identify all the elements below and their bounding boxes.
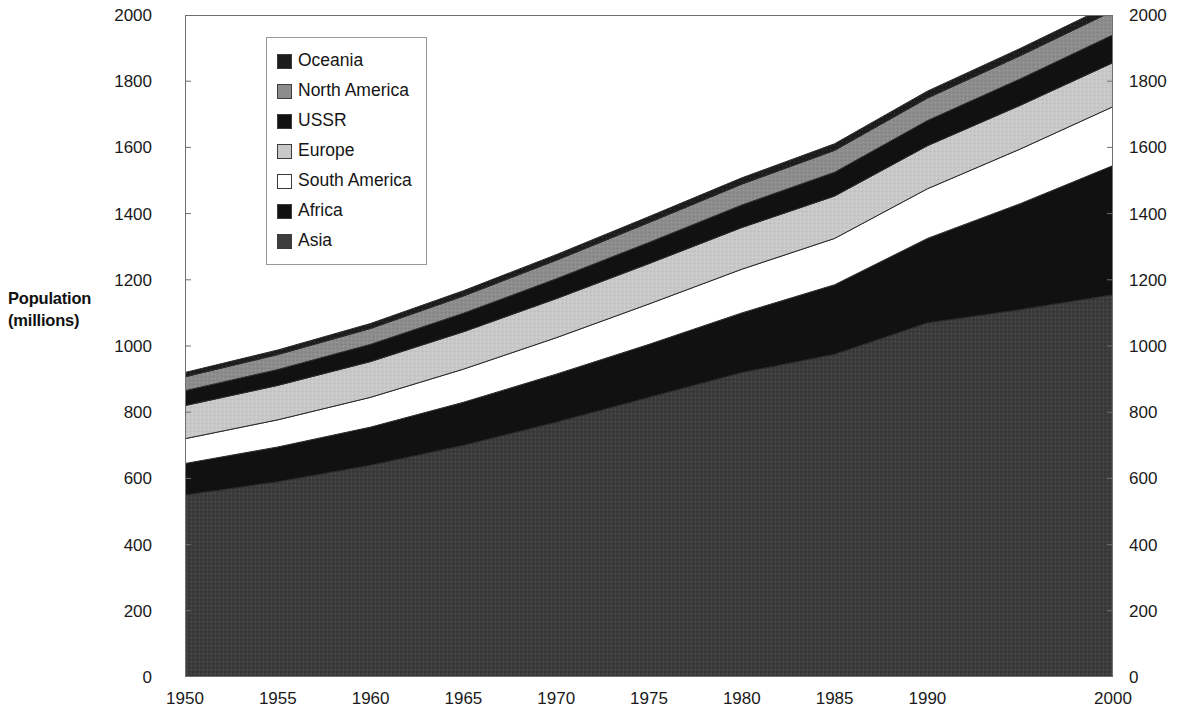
- legend-swatch-icon: [277, 54, 292, 69]
- y-axis-tick-label: 600: [124, 470, 152, 487]
- x-axis-tick-label: 2000: [1094, 690, 1132, 707]
- x-axis-tick-label: 1965: [444, 690, 482, 707]
- y-axis-tick-label-right: 200: [1129, 603, 1157, 620]
- y-axis-tick-label: 2000: [114, 7, 152, 24]
- y-axis-title: Population (millions): [8, 288, 133, 332]
- x-axis-tick-label: 1990: [908, 690, 946, 707]
- x-axis-tick-label: 1970: [537, 690, 575, 707]
- legend-item-label: South America: [298, 172, 412, 190]
- legend-item-africa[interactable]: Africa: [277, 196, 412, 226]
- y-axis-tick-label: 1000: [114, 338, 152, 355]
- y-axis-tick-label-right: 1400: [1129, 206, 1167, 223]
- y-axis-title-line-1: Population: [8, 288, 133, 310]
- legend-item-label: Oceania: [298, 52, 363, 70]
- chart-legend: OceaniaNorth AmericaUSSREuropeSouth Amer…: [266, 37, 427, 265]
- y-axis-title-line-2: (millions): [8, 310, 133, 332]
- y-axis-tick-label: 1200: [114, 272, 152, 289]
- legend-item-label: Africa: [298, 202, 343, 220]
- x-axis-tick-label: 1975: [630, 690, 668, 707]
- y-axis-tick-label: 0: [143, 669, 152, 686]
- legend-item-south-america[interactable]: South America: [277, 166, 412, 196]
- y-axis-tick-label: 1400: [114, 206, 152, 223]
- legend-item-oceania[interactable]: Oceania: [277, 46, 412, 76]
- legend-item-label: Europe: [298, 142, 354, 160]
- y-axis-tick-label: 400: [124, 537, 152, 554]
- y-axis-tick-label: 800: [124, 404, 152, 421]
- y-axis-tick-label: 200: [124, 603, 152, 620]
- legend-item-label: Asia: [298, 232, 332, 250]
- y-axis-tick-label-right: 1600: [1129, 139, 1167, 156]
- y-axis-tick-label-right: 1200: [1129, 272, 1167, 289]
- y-axis-tick-label-right: 400: [1129, 537, 1157, 554]
- x-axis-tick-label: 1980: [723, 690, 761, 707]
- x-axis-tick-label: 1955: [259, 690, 297, 707]
- y-axis-tick-label-right: 1000: [1129, 338, 1167, 355]
- y-axis-tick-label: 1600: [114, 139, 152, 156]
- legend-swatch-icon: [277, 234, 292, 249]
- legend-swatch-icon: [277, 204, 292, 219]
- legend-item-north-america[interactable]: North America: [277, 76, 412, 106]
- x-axis-tick-label: 1950: [166, 690, 204, 707]
- y-axis-tick-label-right: 1800: [1129, 73, 1167, 90]
- y-axis-tick-label: 1800: [114, 73, 152, 90]
- stacked-area-chart: Population (millions) 020040060080010001…: [0, 0, 1184, 718]
- legend-item-asia[interactable]: Asia: [277, 226, 412, 256]
- legend-swatch-icon: [277, 114, 292, 129]
- legend-swatch-icon: [277, 174, 292, 189]
- y-axis-tick-label-right: 0: [1129, 669, 1138, 686]
- legend-item-label: USSR: [298, 112, 347, 130]
- legend-swatch-icon: [277, 84, 292, 99]
- y-axis-tick-label-right: 600: [1129, 470, 1157, 487]
- legend-swatch-icon: [277, 144, 292, 159]
- legend-item-label: North America: [298, 82, 409, 100]
- legend-item-europe[interactable]: Europe: [277, 136, 412, 166]
- y-axis-tick-label-right: 800: [1129, 404, 1157, 421]
- x-axis-tick-label: 1985: [816, 690, 854, 707]
- y-axis-tick-label-right: 2000: [1129, 7, 1167, 24]
- x-axis-tick-label: 1960: [352, 690, 390, 707]
- legend-item-ussr[interactable]: USSR: [277, 106, 412, 136]
